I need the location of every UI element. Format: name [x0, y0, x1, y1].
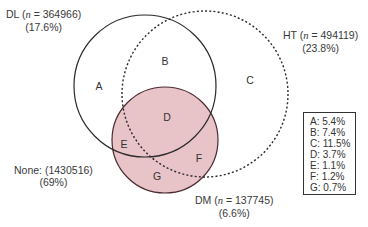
- dl-name: DL: [6, 8, 19, 20]
- legend-item-g: G: 0.7%: [310, 182, 355, 193]
- ht-count: 494119: [320, 29, 354, 41]
- ht-name: HT: [283, 29, 297, 41]
- n-symbol: n: [303, 30, 308, 41]
- dm-name: DM: [195, 194, 211, 206]
- ht-percent: (23.8%): [302, 42, 339, 54]
- legend-item-e: E: 1.1%: [310, 160, 355, 171]
- legend-item-b: B: 7.4%: [310, 127, 355, 138]
- region-d: D: [163, 111, 171, 123]
- region-e: E: [120, 138, 127, 150]
- dl-percent: (17.6%): [25, 21, 62, 33]
- legend-item-f: F: 1.2%: [310, 171, 355, 182]
- none-label: None: (1430516) (69%): [14, 164, 93, 188]
- dl-count: 364966: [43, 8, 78, 20]
- legend-item-a: A: 5.4%: [310, 116, 355, 127]
- legend-box: A: 5.4% B: 7.4% C: 11.5% D: 3.7% E: 1.1%…: [303, 112, 356, 195]
- region-g: G: [153, 170, 161, 182]
- region-c: C: [246, 74, 254, 86]
- dm-count: 137745: [235, 194, 270, 206]
- n-symbol: n: [25, 9, 30, 20]
- dm-label: DM (n = 137745) (6.6%): [195, 194, 274, 219]
- region-f: F: [196, 152, 202, 164]
- dl-label: DL (n = 364966) (17.6%): [6, 8, 81, 33]
- n-symbol: n: [218, 195, 223, 206]
- legend-item-c: C: 11.5%: [310, 138, 355, 149]
- dm-circle: [112, 87, 218, 193]
- dm-percent: (6.6%): [219, 207, 250, 219]
- legend-item-d: D: 3.7%: [310, 149, 355, 160]
- region-a: A: [95, 80, 102, 92]
- ht-label: HT (n = 494119) (23.8%): [283, 29, 358, 54]
- none-count: None: (1430516): [14, 164, 93, 176]
- none-percent: (69%): [39, 176, 67, 188]
- region-b: B: [161, 55, 168, 67]
